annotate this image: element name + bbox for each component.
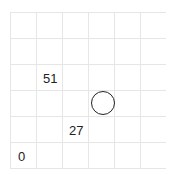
grid-line	[10, 12, 166, 13]
grid-line	[10, 64, 166, 65]
cell-number-27[interactable]: 27	[69, 124, 83, 137]
grid-line	[10, 116, 166, 117]
grid-line	[10, 90, 166, 91]
circle-marker[interactable]	[91, 91, 115, 115]
cell-number-0[interactable]: 0	[18, 150, 25, 163]
grid-line	[10, 38, 166, 39]
grid-line	[10, 142, 166, 143]
grid-line	[10, 168, 166, 169]
game-board	[10, 12, 166, 168]
cell-number-51[interactable]: 51	[43, 72, 57, 85]
